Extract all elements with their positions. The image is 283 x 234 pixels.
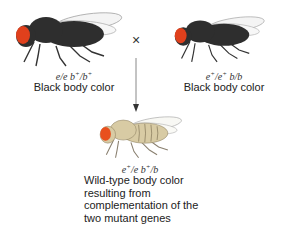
offspring-description-line: Wild-type body color — [84, 174, 198, 187]
black-fly-parent-1-icon — [8, 8, 138, 70]
down-arrow-icon — [131, 58, 141, 114]
black-fly-parent-2-icon — [168, 8, 278, 70]
offspring-description-line: complementation of the — [84, 199, 198, 212]
offspring-description-line: two mutant genes — [84, 212, 198, 225]
parent-2-phenotype: Black body color — [164, 81, 283, 93]
parent-1-phenotype: Black body color — [14, 81, 134, 93]
cross-symbol: × — [132, 32, 140, 48]
wild-type-fly-offspring-icon — [94, 112, 194, 162]
offspring-description-line: resulting from — [84, 187, 198, 200]
offspring-description: Wild-type body color resulting from comp… — [84, 174, 198, 224]
